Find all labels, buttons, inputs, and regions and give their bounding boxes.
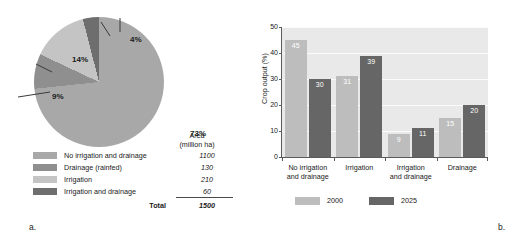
legend-rows: No irrigation and drainage1100Drainage (… [33, 149, 238, 197]
x-axis-tick-mark [385, 157, 386, 161]
panel-b-tag: b. [498, 222, 505, 232]
plot-area: 453031399111520 [282, 27, 488, 157]
legend-row-label: Irrigation and drainage [64, 187, 176, 196]
legend-swatch [33, 188, 57, 195]
legend-row-value: 210 [176, 175, 238, 184]
bar-legend-swatch [295, 197, 320, 205]
bar: 30 [309, 79, 331, 157]
legend-row: Drainage (rainfed)130 [33, 161, 238, 173]
legend-row-value: 60 [176, 187, 238, 196]
bar-value-label: 39 [360, 58, 382, 65]
y-axis-tick-label: 40 [266, 49, 278, 56]
legend-total-value: 1500 [176, 201, 238, 210]
legend-swatch [33, 152, 57, 159]
legend-row-label: No irrigation and drainage [64, 151, 176, 160]
legend-swatch [33, 164, 57, 171]
legend-header-units: (million ha) [161, 140, 233, 149]
y-axis-tick-label: 50 [266, 23, 278, 30]
bar-value-label: 9 [388, 136, 410, 143]
bar: 31 [336, 76, 358, 157]
bar-value-label: 45 [285, 42, 307, 49]
bar-value-label: 31 [336, 78, 358, 85]
bar-value-label: 30 [309, 81, 331, 88]
legend-column-header: Area (million ha) [161, 131, 233, 149]
x-axis-category-label: Drainage [428, 163, 496, 172]
x-axis-tick-mark [282, 157, 283, 161]
panel-a-tag: a. [29, 222, 36, 232]
bar: 15 [439, 118, 461, 157]
legend-total-row: Total 1500 [33, 199, 238, 212]
bar-legend-label: 2000 [327, 196, 343, 205]
x-axis-tick-mark [437, 157, 438, 161]
y-axis-tick-mark [279, 27, 282, 28]
bar-legend-item: 2000 [295, 196, 343, 205]
bar-chart-legend: 20002025 [295, 196, 443, 205]
bar: 45 [285, 40, 307, 157]
legend-row-value: 1100 [176, 151, 238, 160]
legend-row-label: Irrigation [64, 175, 176, 184]
legend-header-area: Area [161, 131, 233, 140]
panel-a-pie-chart: 73% 14% 9% 4% Area (million ha) No irrig… [0, 0, 250, 248]
y-axis-tick-mark [279, 79, 282, 80]
legend-row-value: 130 [176, 163, 238, 172]
y-axis-tick-mark [279, 53, 282, 54]
legend-row: Irrigation and drainage60 [33, 185, 238, 197]
bar-value-label: 11 [412, 130, 434, 137]
bar-value-label: 15 [439, 120, 461, 127]
y-axis-tick-label: 20 [266, 101, 278, 108]
y-axis-tick-mark [279, 131, 282, 132]
bar-legend-label: 2025 [401, 196, 417, 205]
x-axis-category-line: Drainage [428, 163, 496, 172]
legend-total-rule [176, 197, 233, 198]
legend-row: Irrigation210 [33, 173, 238, 185]
y-axis-tick-mark [279, 105, 282, 106]
y-axis-line [281, 27, 282, 158]
bar: 9 [388, 134, 410, 157]
pie-label-9: 9% [52, 92, 64, 101]
bar-series: 453031399111520 [282, 27, 488, 157]
y-axis-tick-label: 0 [266, 153, 278, 160]
bar-legend-item: 2025 [369, 196, 417, 205]
pie-slices [34, 17, 164, 147]
panel-b-bar-chart: Crop output (%) 453031399111520 01020304… [250, 0, 516, 248]
x-axis-tick-mark [334, 157, 335, 161]
x-axis-category-line: and drainage [274, 172, 342, 181]
pie-legend-table: Area (million ha) No irrigation and drai… [33, 131, 238, 212]
legend-row: No irrigation and drainage1100 [33, 149, 238, 161]
pie-chart: 73% 14% 9% 4% [34, 17, 164, 147]
y-axis-tick-label: 10 [266, 127, 278, 134]
bar: 39 [360, 56, 382, 157]
figure-container: 73% 14% 9% 4% Area (million ha) No irrig… [0, 0, 516, 248]
x-axis-tick-mark [487, 157, 488, 161]
x-axis-category-line: and drainage [377, 172, 445, 181]
legend-row-label: Drainage (rainfed) [64, 163, 176, 172]
y-axis-tick-label: 30 [266, 75, 278, 82]
bar-legend-swatch [369, 197, 394, 205]
bar-value-label: 20 [463, 107, 485, 114]
bar: 20 [463, 105, 485, 157]
legend-total-label: Total [149, 201, 166, 210]
bar: 11 [412, 128, 434, 157]
pie-label-4: 4% [130, 35, 142, 44]
pie-label-14: 14% [72, 55, 88, 64]
legend-swatch [33, 176, 57, 183]
